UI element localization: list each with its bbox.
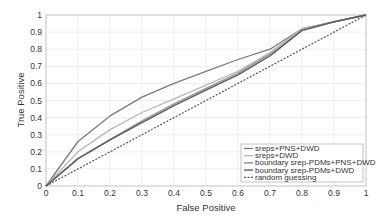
y-tick-label: 0.2 — [30, 147, 42, 157]
x-tick-label: 0.7 — [264, 188, 276, 198]
legend-label: random guessing — [255, 173, 316, 182]
y-tick-label: 0.5 — [30, 96, 42, 106]
x-axis-label: False Positive — [176, 202, 235, 213]
roc-chart: 00.10.20.30.40.50.60.70.80.91 00.10.20.3… — [0, 0, 386, 218]
x-tick-label: 0.5 — [200, 188, 212, 198]
y-tick-label: 0.9 — [30, 27, 42, 37]
x-tick-label: 0.2 — [104, 188, 116, 198]
x-tick-label: 0.6 — [232, 188, 244, 198]
legend: sreps+PNS+DWDsreps+DWDboundary srep-PDMs… — [241, 144, 376, 182]
y-tick-label: 0.1 — [30, 164, 42, 174]
y-tick-label: 1 — [37, 10, 42, 20]
x-tick-label: 1 — [364, 188, 369, 198]
y-tick-label: 0.6 — [30, 78, 42, 88]
y-tick-label: 0.8 — [30, 44, 42, 54]
x-tick-label: 0.1 — [72, 188, 84, 198]
x-axis-ticks: 00.10.20.30.40.50.60.70.80.91 — [44, 188, 369, 198]
x-tick-label: 0.8 — [296, 188, 308, 198]
y-tick-label: 0.4 — [30, 113, 42, 123]
y-tick-label: 0 — [37, 181, 42, 191]
y-axis-label: True Positive — [15, 72, 26, 127]
y-tick-label: 0.7 — [30, 61, 42, 71]
y-tick-label: 0.3 — [30, 130, 42, 140]
x-tick-label: 0.3 — [136, 188, 148, 198]
y-axis-ticks: 00.10.20.30.40.50.60.70.80.91 — [30, 10, 42, 191]
x-tick-label: 0 — [44, 188, 49, 198]
x-tick-label: 0.9 — [328, 188, 340, 198]
x-tick-label: 0.4 — [168, 188, 180, 198]
